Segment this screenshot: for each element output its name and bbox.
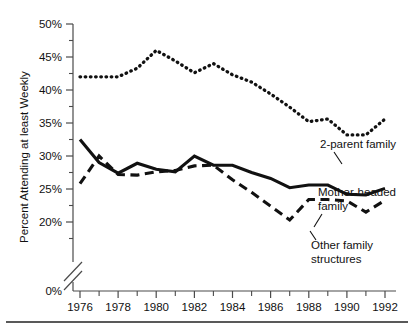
y-tick-label-45: 45%: [39, 51, 62, 63]
axis-break-slash-upper: [64, 262, 82, 281]
annotation-other-family-structures-line2: structures: [311, 253, 362, 265]
y-axis-major-ticks: [66, 24, 73, 222]
annotation-other-family-structures-line1: Other family: [311, 239, 373, 251]
leader-line-2-parent-family: [334, 152, 342, 164]
x-tick-label-1976: 1976: [67, 301, 93, 313]
leader-line-mother-headed-family: [314, 214, 322, 227]
series-line-2-parent-family: [80, 50, 385, 134]
y-tick-label-0: 0%: [45, 285, 62, 297]
x-tick-label-1986: 1986: [258, 301, 284, 313]
y-axis-tick-labels: 50% 45% 40% 35% 30% 25% 20% 0%: [39, 18, 62, 297]
x-tick-label-1984: 1984: [220, 301, 246, 313]
chart-canvas: 50% 45% 40% 35% 30% 25% 20% 0% Percent A…: [0, 0, 414, 326]
annotation-2-parent-family: 2-parent family: [320, 138, 396, 150]
chart-container: 50% 45% 40% 35% 30% 25% 20% 0% Percent A…: [0, 0, 414, 326]
annotation-mother-headed-family-line2: family: [318, 200, 348, 212]
x-tick-label-1982: 1982: [182, 301, 208, 313]
x-axis-tick-labels: 1976 1978 1980 1982 1984 1986 1988 1990 …: [67, 301, 398, 313]
x-tick-label-1990: 1990: [334, 301, 360, 313]
x-tick-label-1978: 1978: [105, 301, 131, 313]
y-tick-label-25: 25%: [39, 183, 62, 195]
x-tick-label-1992: 1992: [372, 301, 398, 313]
y-tick-label-35: 35%: [39, 117, 62, 129]
y-axis-title: Percent Attending at least Weekly: [18, 71, 30, 243]
y-tick-label-20: 20%: [39, 216, 62, 228]
x-tick-label-1988: 1988: [296, 301, 322, 313]
y-tick-label-40: 40%: [39, 84, 62, 96]
y-tick-label-50: 50%: [39, 18, 62, 30]
x-tick-label-1980: 1980: [143, 301, 169, 313]
annotation-mother-headed-family-line1: Mother-headed: [318, 186, 396, 198]
line-chart-svg: 50% 45% 40% 35% 30% 25% 20% 0% Percent A…: [0, 0, 414, 326]
x-axis-major-ticks: [80, 291, 385, 298]
y-tick-label-30: 30%: [39, 150, 62, 162]
